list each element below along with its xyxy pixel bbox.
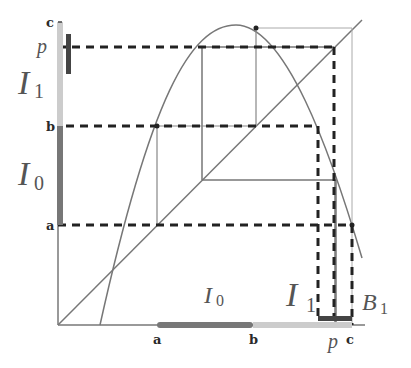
map-curve (100, 25, 362, 325)
point-c (350, 223, 355, 228)
y-label-a: a (46, 218, 55, 233)
B1-bar-bottom (318, 316, 352, 321)
y-label-c: c (46, 15, 54, 30)
svg-text:I: I (17, 155, 31, 192)
cobweb-diagram: c p b a a b p c I 1 I 0 I 0 I 1 B 1 (0, 0, 411, 368)
label-I1-bottom: I 1 (285, 276, 316, 316)
label-B1-bottom: B 1 (362, 289, 388, 317)
svg-text:1: 1 (306, 294, 316, 316)
x-label-p: p (326, 330, 338, 353)
svg-text:B: B (362, 289, 377, 315)
label-I0-left: I 0 (17, 155, 44, 194)
top-box-line (256, 28, 352, 325)
I0-bar-bottom (157, 322, 253, 328)
y-label-p: p (35, 35, 47, 58)
svg-text:0: 0 (216, 292, 224, 309)
y-label-b: b (46, 119, 55, 134)
svg-text:1: 1 (34, 80, 44, 102)
diagonal-line (58, 20, 362, 325)
svg-text:0: 0 (34, 172, 44, 194)
svg-text:1: 1 (380, 300, 388, 317)
label-I0-bottom: I 0 (203, 282, 224, 309)
point-b (155, 124, 160, 129)
x-label-a: a (153, 332, 162, 347)
x-label-c: c (346, 332, 354, 347)
point-max (254, 26, 259, 31)
svg-text:I: I (285, 276, 299, 313)
I1-bar-left (57, 22, 63, 126)
p-marker-left (66, 34, 71, 74)
x-label-b: b (249, 332, 258, 347)
svg-text:I: I (17, 64, 31, 101)
I0-bar-left (57, 126, 63, 225)
svg-text:I: I (203, 282, 213, 308)
label-I1-left: I 1 (17, 64, 44, 102)
I1-bar-bottom (253, 322, 352, 328)
